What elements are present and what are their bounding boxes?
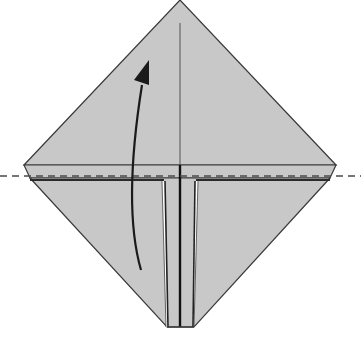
caption-clipped <box>18 334 238 342</box>
origami-diagram <box>0 0 361 342</box>
